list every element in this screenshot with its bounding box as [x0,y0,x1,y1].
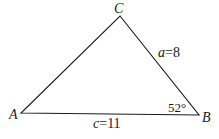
side-a-eq: = [165,45,173,60]
vertex-label-b: B [202,110,211,125]
side-c-value: 11 [107,116,120,131]
vertex-label-a: A [8,107,18,122]
triangle-diagram: C A B a=8 52° c=11 [0,0,219,139]
side-a-var: a [158,45,165,60]
side-a-value: 8 [173,45,180,60]
angle-b-label: 52° [168,100,186,115]
side-c-label: c=11 [93,116,121,131]
side-c-eq: = [99,116,107,131]
vertex-label-c: C [114,1,124,16]
side-a-label: a=8 [158,45,180,60]
